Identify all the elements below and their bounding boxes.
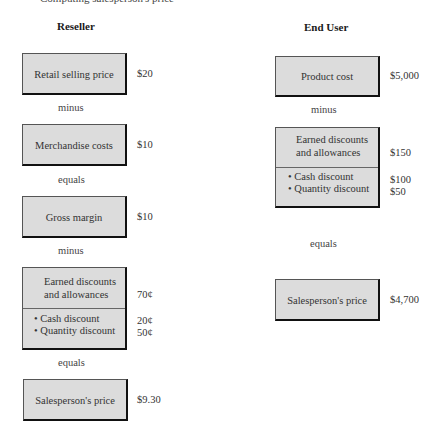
reseller-earned-discounts-box: Earned discounts and allowances • Cash d… xyxy=(22,267,127,350)
reseller-retail-price-box: Retail selling price xyxy=(22,53,127,95)
clipped-heading: Computing salesperson's price xyxy=(40,0,174,4)
operator-equals: equals xyxy=(58,174,85,185)
reseller-quantity-discount-value: 50¢ xyxy=(137,327,153,339)
reseller-header: Reseller xyxy=(57,20,95,32)
end-user-product-cost-box: Product cost xyxy=(275,56,380,97)
box-label: Merchandise costs xyxy=(23,139,125,150)
end-user-quantity-discount-value: $50 xyxy=(390,186,406,198)
box-label: Salesperson's price xyxy=(24,394,126,405)
earned-discounts-header: Earned discounts and allowances xyxy=(276,128,378,168)
box-label: Retail selling price xyxy=(23,68,125,79)
end-user-earned-discounts-box: Earned discounts and allowances • Cash d… xyxy=(275,127,380,208)
earned-discounts-items: • Cash discount • Quantity discount xyxy=(276,166,378,206)
operator-equals: equals xyxy=(310,238,337,249)
operator-minus: minus xyxy=(58,245,84,256)
end-user-header: End User xyxy=(304,21,348,33)
end-user-cash-discount-value: $100 xyxy=(390,174,411,186)
earned-discounts-items: • Cash discount • Quantity discount xyxy=(23,307,125,348)
reseller-earned-discounts-value: 70¢ xyxy=(137,289,153,301)
reseller-salesperson-price-value: $9.30 xyxy=(137,394,161,406)
box-label: Product cost xyxy=(276,71,378,82)
discount-item-label: • Cash discount xyxy=(288,171,369,183)
end-user-salesperson-price-box: Salesperson's price xyxy=(275,279,380,321)
reseller-cash-discount-value: 20¢ xyxy=(137,315,153,327)
reseller-gross-margin-value: $10 xyxy=(137,211,153,223)
discount-item-label: • Quantity discount xyxy=(34,325,115,337)
reseller-gross-margin-box: Gross margin xyxy=(22,196,127,238)
box-label-line: Earned discounts xyxy=(296,133,368,146)
reseller-merchandise-costs-box: Merchandise costs xyxy=(22,124,127,166)
end-user-product-cost-value: $5,000 xyxy=(390,70,419,82)
box-label: Gross margin xyxy=(23,211,125,222)
operator-minus: minus xyxy=(58,102,84,113)
reseller-retail-price-value: $20 xyxy=(137,68,153,80)
box-label-line: and allowances xyxy=(296,146,368,159)
earned-discounts-header: Earned discounts and allowances xyxy=(23,268,125,309)
end-user-earned-discounts-value: $150 xyxy=(390,147,411,159)
operator-minus: minus xyxy=(311,104,337,115)
discount-item-label: • Quantity discount xyxy=(288,183,369,195)
box-label-line: Earned discounts xyxy=(44,275,116,288)
end-user-salesperson-price-value: $4,700 xyxy=(390,294,419,306)
box-label-line: and allowances xyxy=(44,288,116,301)
reseller-salesperson-price-box: Salesperson's price xyxy=(23,379,128,421)
discount-item-label: • Cash discount xyxy=(34,313,115,325)
reseller-merchandise-costs-value: $10 xyxy=(137,139,153,151)
box-label: Salesperson's price xyxy=(276,294,378,305)
operator-equals: equals xyxy=(58,357,85,368)
